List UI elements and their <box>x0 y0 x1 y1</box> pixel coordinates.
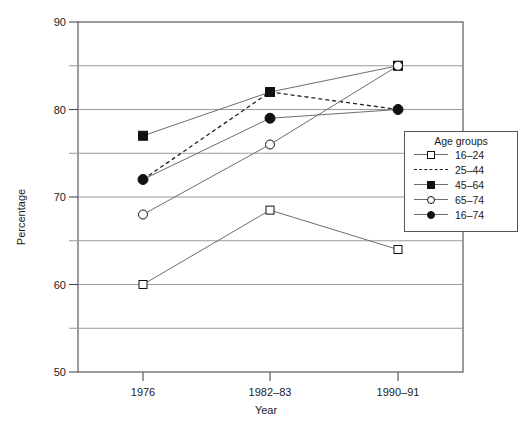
legend-item: 16–74 <box>414 207 517 222</box>
x-tick-label: 1982–83 <box>249 386 292 398</box>
legend-item: 16–24 <box>414 147 517 162</box>
x-tick-label: 1976 <box>131 386 155 398</box>
y-tick-label: 60 <box>26 279 66 291</box>
filled-square-marker-icon <box>427 181 435 189</box>
legend-key-icon <box>414 208 448 222</box>
y-tick-label: 80 <box>26 104 66 116</box>
legend-item: 25–44 <box>414 162 517 177</box>
open-square-marker-icon <box>427 151 435 159</box>
y-tick-label: 70 <box>26 191 66 203</box>
legend-item-label: 25–44 <box>455 164 484 176</box>
legend-key-icon <box>414 178 448 192</box>
legend-item: 45–64 <box>414 177 517 192</box>
legend-key-icon <box>414 163 448 177</box>
legend-item-label: 16–74 <box>455 209 484 221</box>
dashed-line-icon <box>414 169 448 170</box>
legend-item: 65–74 <box>414 192 517 207</box>
open-circle-marker-icon <box>427 196 435 204</box>
legend-item-label: 65–74 <box>455 194 484 206</box>
legend-item-label: 45–64 <box>455 179 484 191</box>
legend-key-icon <box>414 148 448 162</box>
legend-item-label: 16–24 <box>455 149 484 161</box>
line-chart: Percentage Year 5060708090 19761982–8319… <box>0 0 532 433</box>
x-axis-title: Year <box>0 404 532 416</box>
y-tick-label: 50 <box>26 366 66 378</box>
x-tick-label: 1990–91 <box>377 386 420 398</box>
y-axis-title-wrap: Percentage <box>13 172 29 262</box>
legend-items: 16–2425–4445–6465–7416–74 <box>405 147 517 222</box>
legend: Age groups 16–2425–4445–6465–7416–74 <box>404 131 518 232</box>
legend-title: Age groups <box>405 135 517 147</box>
legend-key-icon <box>414 193 448 207</box>
y-tick-label: 90 <box>26 16 66 28</box>
filled-circle-marker-icon <box>427 211 435 219</box>
